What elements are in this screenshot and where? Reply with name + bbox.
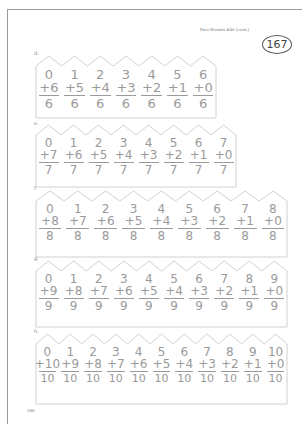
fact-sum: 9 (195, 300, 203, 312)
fact-sum: 9 (271, 300, 279, 312)
addition-fact: 5+16 (165, 68, 191, 110)
fact-sum: 8 (46, 230, 54, 242)
fact-sum: 8 (185, 230, 193, 242)
fact-addend: +5 (65, 81, 84, 94)
addition-fact: 1+56 (62, 68, 88, 110)
fact-addend: +3 (198, 358, 216, 370)
addition-fact: 3+58 (120, 203, 148, 242)
fact-sum: 9 (45, 300, 53, 312)
addition-fact: 6+06 (190, 68, 216, 110)
fact-addend: +6 (97, 215, 115, 227)
fact-addend: +7 (40, 149, 58, 161)
fact-addend: +4 (165, 285, 183, 297)
fact-addend: +3 (140, 149, 158, 161)
fact-addend: +7 (107, 358, 125, 370)
house-label: h. (34, 328, 39, 334)
fact-sum: 9 (170, 300, 178, 312)
fact-row: 0+661+562+463+364+265+166+06 (36, 68, 216, 110)
addition-fact: 0+1010 (36, 346, 59, 384)
house-label: g. (34, 255, 39, 261)
fact-sum: 7 (45, 164, 53, 176)
addition-fact: 1+67 (61, 137, 86, 176)
fact-sum: 7 (145, 164, 153, 176)
addition-fact: 2+46 (87, 68, 113, 110)
fact-addend: +2 (165, 149, 183, 161)
fact-row: 0+881+782+683+584+485+386+287+188+08 (36, 203, 287, 242)
fact-addend: +4 (115, 149, 133, 161)
fact-house-8: f.0+881+782+683+584+485+386+287+188+08 (36, 187, 287, 257)
fact-addend: +2 (221, 358, 239, 370)
addition-fact: 2+68 (92, 203, 120, 242)
fact-addend: +8 (65, 285, 83, 297)
addition-fact: 3+710 (104, 346, 127, 384)
page-frame-left (7, 9, 8, 424)
addition-fact: 8+08 (259, 203, 287, 242)
fact-sum: 10 (63, 373, 77, 384)
addition-fact: 0+66 (36, 68, 62, 110)
fact-sum: 6 (122, 97, 130, 110)
page-title: Fact Houses #40 (cont.) (200, 27, 249, 32)
addition-fact: 6+28 (203, 203, 231, 242)
addition-fact: 7+310 (196, 346, 219, 384)
fact-addend: +0 (264, 215, 282, 227)
fact-sum: 9 (245, 300, 253, 312)
fact-addend: +9 (40, 285, 58, 297)
fact-sum: 10 (86, 373, 100, 384)
fact-row: 0+10101+9102+8103+7104+6105+5106+4107+31… (36, 346, 287, 384)
fact-addend: +1 (190, 149, 208, 161)
addition-fact: 6+17 (186, 137, 211, 176)
addition-fact: 1+910 (59, 346, 82, 384)
fact-sum: 7 (170, 164, 178, 176)
fact-addend: +2 (208, 215, 226, 227)
addition-fact: 5+510 (150, 346, 173, 384)
fact-addend: +2 (142, 81, 161, 94)
fact-sum: 9 (220, 300, 228, 312)
addition-fact: 1+89 (61, 273, 86, 312)
fact-house-9: g.0+991+892+793+694+595+496+397+298+199+… (36, 257, 287, 327)
fact-addend: +5 (125, 215, 143, 227)
addition-fact: 4+26 (139, 68, 165, 110)
fact-sum: 9 (95, 300, 103, 312)
fact-house-6: d.0+661+562+463+364+265+166+06 (36, 52, 216, 118)
addition-fact: 5+49 (161, 273, 186, 312)
fact-addend: +0 (193, 81, 212, 94)
addition-fact: 4+37 (136, 137, 161, 176)
addition-fact: 0+99 (36, 273, 61, 312)
fact-sum: 7 (220, 164, 228, 176)
fact-row: 0+771+672+573+474+375+276+177+07 (36, 137, 236, 176)
house-label: d. (34, 50, 39, 56)
fact-addend: +4 (91, 81, 110, 94)
fact-sum: 10 (223, 373, 237, 384)
fact-sum: 6 (45, 97, 53, 110)
addition-fact: 1+78 (64, 203, 92, 242)
house-label: e. (34, 120, 39, 126)
fact-sum: 10 (154, 373, 168, 384)
fact-sum: 7 (195, 164, 203, 176)
fact-addend: +5 (153, 358, 171, 370)
fact-addend: +9 (61, 358, 79, 370)
fact-sum: 9 (70, 300, 78, 312)
addition-fact: 2+57 (86, 137, 111, 176)
fact-sum: 7 (70, 164, 78, 176)
addition-fact: 4+48 (148, 203, 176, 242)
fact-row: 0+991+892+793+694+595+496+397+298+199+09 (36, 273, 287, 312)
fact-sum: 8 (269, 230, 277, 242)
fact-addend: +1 (240, 285, 258, 297)
fact-addend: +6 (65, 149, 83, 161)
fact-sum: 10 (109, 373, 123, 384)
fact-addend: +8 (41, 215, 59, 227)
fact-sum: 8 (102, 230, 110, 242)
fact-addend: +4 (175, 358, 193, 370)
fact-addend: +10 (35, 358, 60, 370)
fact-addend: +0 (267, 358, 285, 370)
addition-fact: 9+09 (262, 273, 287, 312)
addition-fact: 6+39 (187, 273, 212, 312)
fact-sum: 6 (173, 97, 181, 110)
fact-addend: +0 (266, 285, 284, 297)
addition-fact: 7+07 (211, 137, 236, 176)
addition-fact: 4+610 (127, 346, 150, 384)
fact-addend: +6 (115, 285, 133, 297)
page-number-badge: 167 (262, 35, 292, 54)
addition-fact: 4+59 (136, 273, 161, 312)
fact-sum: 8 (213, 230, 221, 242)
